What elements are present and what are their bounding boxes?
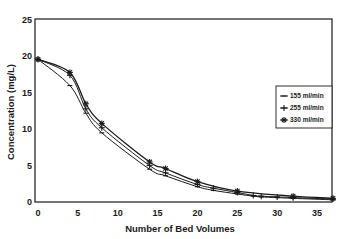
series-line	[38, 59, 333, 198]
chart: 0510152025 05101520253035 Number of Bed …	[0, 0, 345, 239]
x-tick-label: 20	[192, 208, 202, 218]
y-tick-label: 15	[22, 88, 32, 98]
data-point	[147, 159, 153, 165]
y-tick-label: 25	[22, 15, 32, 25]
series-330	[35, 56, 336, 201]
x-tick-label: 30	[272, 208, 282, 218]
data-point	[35, 56, 41, 62]
x-axis-label: Number of Bed Volumes	[125, 223, 235, 234]
x-tick-label: 5	[75, 208, 80, 218]
x-tick-label: 10	[113, 208, 123, 218]
data-point	[290, 193, 296, 199]
data-point	[83, 101, 89, 107]
y-tick-label: 5	[27, 161, 32, 171]
data-point	[330, 195, 336, 201]
legend-label: 255 ml/min	[290, 104, 324, 111]
series-255	[35, 56, 336, 202]
legend-marker-icon	[281, 117, 287, 123]
series-155	[36, 59, 336, 200]
series-line	[38, 59, 333, 199]
series-line	[38, 59, 333, 200]
x-tick-label: 35	[312, 208, 322, 218]
data-point	[194, 179, 200, 185]
y-axis-label: Concentration (mg/L)	[5, 64, 16, 160]
data-point	[99, 120, 105, 126]
data-point	[163, 166, 169, 172]
y-tick-label: 20	[22, 51, 32, 61]
legend: 155 ml/min255 ml/min330 ml/min	[276, 86, 332, 128]
data-point	[234, 188, 240, 194]
x-tick-label: 0	[35, 208, 40, 218]
data-point	[67, 69, 73, 75]
y-tick-label: 10	[22, 124, 32, 134]
y-tick-label: 0	[27, 197, 32, 207]
legend-label: 155 ml/min	[290, 92, 324, 99]
x-tick-label: 15	[153, 208, 163, 218]
legend-label: 330 ml/min	[290, 116, 324, 123]
x-tick-label: 25	[232, 208, 242, 218]
